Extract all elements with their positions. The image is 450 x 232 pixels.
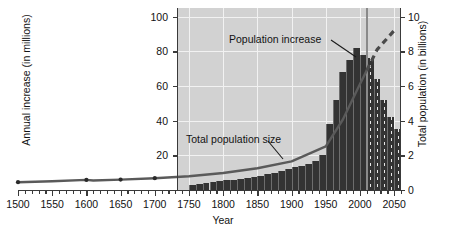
x-axis-title: Year bbox=[178, 214, 268, 226]
y-axis-left-tick bbox=[173, 121, 177, 122]
y-axis-left-tick-label: 40 bbox=[130, 116, 168, 127]
y-axis-right-title: Total population (in billions) bbox=[416, 14, 428, 154]
x-axis-minor-tick bbox=[32, 191, 33, 194]
x-axis-major-tick bbox=[121, 191, 122, 196]
y-axis-right-tick-label: 0 bbox=[408, 185, 434, 196]
x-axis-minor-tick bbox=[141, 191, 142, 194]
x-axis-minor-tick bbox=[93, 191, 94, 194]
x-axis-major-tick bbox=[86, 191, 87, 196]
data-point-marker bbox=[153, 176, 157, 180]
x-axis-minor-tick bbox=[162, 191, 163, 194]
y-axis-left-tick-label: 20 bbox=[130, 150, 168, 161]
x-axis-minor-tick bbox=[346, 191, 347, 194]
x-axis-minor-tick bbox=[237, 191, 238, 194]
y-axis-left-line bbox=[177, 8, 178, 190]
x-axis-minor-tick bbox=[148, 191, 149, 194]
x-axis-minor-tick bbox=[230, 191, 231, 194]
x-axis-minor-tick bbox=[367, 191, 368, 194]
y-axis-right-tick bbox=[401, 51, 405, 52]
x-axis-minor-tick bbox=[387, 191, 388, 194]
x-axis-minor-tick bbox=[182, 191, 183, 194]
y-axis-right-tick bbox=[401, 86, 405, 87]
total-population-line-solid bbox=[18, 70, 367, 182]
data-point-marker bbox=[84, 178, 88, 182]
x-axis-minor-tick bbox=[374, 191, 375, 194]
x-axis-minor-tick bbox=[80, 191, 81, 194]
x-axis-minor-tick bbox=[401, 191, 402, 194]
x-axis-minor-tick bbox=[127, 191, 128, 194]
x-axis-minor-tick bbox=[39, 191, 40, 194]
x-axis-major-tick bbox=[326, 191, 327, 196]
y-axis-left-tick-label: 60 bbox=[130, 81, 168, 92]
total-population-data-points bbox=[16, 176, 157, 184]
x-axis-minor-tick bbox=[216, 191, 217, 194]
y-axis-left-tick-label: 80 bbox=[130, 46, 168, 57]
y-axis-left-tick bbox=[173, 155, 177, 156]
x-axis-minor-tick bbox=[100, 191, 101, 194]
data-point-marker bbox=[119, 178, 123, 182]
y-axis-right-tick bbox=[401, 155, 405, 156]
x-axis-minor-tick bbox=[298, 191, 299, 194]
x-axis-minor-tick bbox=[107, 191, 108, 194]
x-axis-minor-tick bbox=[210, 191, 211, 194]
x-axis-minor-tick bbox=[25, 191, 26, 194]
x-axis-minor-tick bbox=[339, 191, 340, 194]
x-axis-minor-tick bbox=[278, 191, 279, 194]
x-axis-minor-tick bbox=[353, 191, 354, 194]
x-axis-major-tick bbox=[18, 191, 19, 196]
y-axis-left-title: Annual increase (in millions) bbox=[20, 10, 32, 150]
x-axis-minor-tick bbox=[312, 191, 313, 194]
y-axis-left-tick-label: 100 bbox=[130, 12, 168, 23]
leader-line-population-increase bbox=[331, 40, 356, 57]
x-axis-minor-tick bbox=[73, 191, 74, 194]
x-axis-minor-tick bbox=[333, 191, 334, 194]
x-axis-minor-tick bbox=[114, 191, 115, 194]
x-axis-minor-tick bbox=[134, 191, 135, 194]
x-axis-minor-tick bbox=[45, 191, 46, 194]
x-axis-minor-tick bbox=[203, 191, 204, 194]
x-axis-minor-tick bbox=[319, 191, 320, 194]
x-axis-minor-tick bbox=[264, 191, 265, 194]
x-axis-minor-tick bbox=[380, 191, 381, 194]
x-axis-major-tick bbox=[223, 191, 224, 196]
x-axis-minor-tick bbox=[168, 191, 169, 194]
x-axis-minor-tick bbox=[244, 191, 245, 194]
y-axis-right-tick bbox=[401, 121, 405, 122]
x-axis-minor-tick bbox=[66, 191, 67, 194]
x-axis-minor-tick bbox=[196, 191, 197, 194]
x-axis-major-tick bbox=[257, 191, 258, 196]
data-point-marker bbox=[16, 180, 20, 184]
y-axis-left-tick bbox=[173, 51, 177, 52]
x-axis-minor-tick bbox=[59, 191, 60, 194]
annotation-population-increase: Population increase bbox=[229, 33, 321, 45]
x-axis-minor-tick bbox=[175, 191, 176, 194]
y-axis-left-tick bbox=[173, 86, 177, 87]
annotation-total-population-size: Total population size bbox=[186, 133, 281, 145]
x-axis-major-tick bbox=[360, 191, 361, 196]
x-axis-minor-tick bbox=[305, 191, 306, 194]
y-axis-left-tick bbox=[173, 17, 177, 18]
y-axis-right-line bbox=[400, 8, 401, 190]
total-population-line-projected bbox=[367, 31, 394, 71]
y-axis-right-tick bbox=[401, 17, 405, 18]
x-axis-minor-tick bbox=[251, 191, 252, 194]
x-axis-major-tick bbox=[189, 191, 190, 196]
population-growth-chart: 20406080100 0246810 15001550160016501700… bbox=[0, 0, 450, 232]
x-axis-tick-label: 2050 bbox=[374, 199, 414, 210]
x-axis-major-tick bbox=[394, 191, 395, 196]
x-axis-major-tick bbox=[292, 191, 293, 196]
x-axis-minor-tick bbox=[285, 191, 286, 194]
x-axis-major-tick bbox=[155, 191, 156, 196]
x-axis-minor-tick bbox=[271, 191, 272, 194]
x-axis-major-tick bbox=[52, 191, 53, 196]
